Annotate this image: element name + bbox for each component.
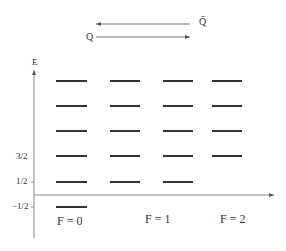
- label-f2: F = 2: [220, 212, 245, 227]
- level-f0: [56, 105, 87, 107]
- level-f2: [212, 105, 242, 107]
- level-f1a: [110, 155, 140, 157]
- level-f1a: [110, 181, 140, 183]
- level-f1b: [163, 181, 193, 183]
- energy-axis-label: E: [32, 57, 38, 67]
- level-f1b: [163, 130, 193, 132]
- label-f1: F = 1: [145, 212, 170, 227]
- level-f2: [212, 80, 242, 82]
- tick-3-2: 3/2: [16, 151, 28, 161]
- level-f1b: [163, 105, 193, 107]
- q-label: Q: [86, 31, 93, 42]
- label-f0: F = 0: [57, 214, 82, 229]
- level-f2: [212, 130, 242, 132]
- level-f2: [212, 155, 242, 157]
- tick-minus-1-2: −1/2: [12, 201, 29, 211]
- tick-1-2: 1/2: [16, 176, 28, 186]
- level-f0: [56, 206, 87, 208]
- level-f1b: [163, 80, 193, 82]
- level-f1b: [163, 155, 193, 157]
- level-f0: [56, 80, 87, 82]
- level-f0: [56, 155, 87, 157]
- level-f0: [56, 181, 87, 183]
- level-f1a: [110, 130, 140, 132]
- level-f1a: [110, 80, 140, 82]
- level-f0: [56, 130, 87, 132]
- level-f1a: [110, 105, 140, 107]
- qbar-label: Q̄: [199, 16, 206, 27]
